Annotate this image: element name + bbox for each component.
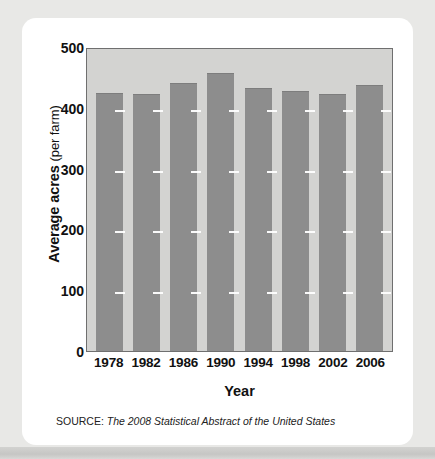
bar-2006 — [356, 85, 383, 351]
bar-1998 — [282, 91, 309, 351]
bar-chart: Average acres (per farm) 500 400 300 200… — [22, 18, 413, 445]
figure-card: Average acres (per farm) 500 400 300 200… — [22, 18, 413, 445]
x-tick-label-2002: 2002 — [314, 355, 351, 370]
y-tick-label-300: 300 — [38, 162, 84, 178]
y-tick-label-0: 0 — [38, 344, 84, 360]
x-axis-tick-labels: 1978 1982 1986 1990 1994 1998 2002 2006 — [86, 355, 393, 370]
bar-1994 — [245, 88, 272, 351]
bar-slot-2006 — [351, 49, 388, 351]
bar-2002 — [319, 94, 346, 351]
bar-slot-1994 — [240, 49, 277, 351]
bar-slot-1998 — [277, 49, 314, 351]
bar-slot-1986 — [165, 49, 202, 351]
bar-slot-1990 — [202, 49, 239, 351]
bar-1978 — [96, 93, 123, 351]
bars-layer — [87, 49, 392, 351]
bar-slot-1978 — [91, 49, 128, 351]
bar-slot-2002 — [314, 49, 351, 351]
x-axis-title: Year — [86, 383, 393, 399]
y-tick-label-400: 400 — [38, 101, 84, 117]
page-bottom-strip — [0, 447, 435, 459]
source-text: The 2008 Statistical Abstract of the Uni… — [107, 415, 335, 427]
source-label: SOURCE: — [56, 415, 104, 427]
x-tick-label-1998: 1998 — [277, 355, 314, 370]
x-tick-label-1994: 1994 — [240, 355, 277, 370]
y-tick-label-500: 500 — [38, 40, 84, 56]
y-tick-label-100: 100 — [38, 283, 84, 299]
x-tick-label-1986: 1986 — [165, 355, 202, 370]
bar-1982 — [133, 94, 160, 351]
source-note: SOURCE: The 2008 Statistical Abstract of… — [56, 415, 335, 427]
y-tick-label-200: 200 — [38, 222, 84, 238]
bar-1990 — [207, 73, 234, 351]
y-axis-title-strong: Average acres — [46, 165, 62, 262]
x-tick-label-1982: 1982 — [127, 355, 164, 370]
x-tick-label-2006: 2006 — [352, 355, 389, 370]
x-tick-label-1990: 1990 — [202, 355, 239, 370]
plot-area — [86, 48, 393, 352]
bar-slot-1982 — [128, 49, 165, 351]
x-tick-label-1978: 1978 — [90, 355, 127, 370]
bar-1986 — [170, 83, 197, 351]
